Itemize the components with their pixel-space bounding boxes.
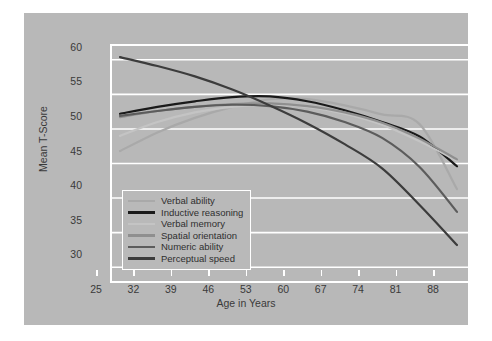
x-tick-label: 81 [381, 284, 411, 295]
legend-swatch-line-icon [128, 246, 155, 249]
legend-swatch-line-icon [128, 200, 155, 203]
chart-screenshot: Mean T-Score Verbal abilityInductive rea… [0, 0, 492, 341]
legend-label: Perceptual speed [161, 254, 235, 264]
x-tick-mark [396, 270, 398, 276]
x-tick-mark [283, 270, 285, 276]
y-axis-title: Mean T-Score [37, 106, 49, 172]
x-tick-mark [246, 270, 248, 276]
x-tick-label: 88 [418, 284, 448, 295]
legend-item: Numeric ability [128, 242, 243, 253]
legend-item: Verbal memory [128, 219, 243, 230]
x-tick-mark [321, 270, 323, 276]
y-tick-label: 45 [56, 146, 82, 157]
y-tick-label: 50 [56, 111, 82, 122]
x-tick-mark [96, 270, 98, 276]
y-tick-label: 55 [56, 76, 82, 87]
legend-swatch-line-icon [128, 234, 155, 237]
legend-label: Verbal ability [161, 196, 215, 206]
x-axis-title: Age in Years [0, 297, 492, 309]
legend-item: Inductive reasoning [128, 207, 243, 218]
y-tick-label: 30 [56, 249, 82, 260]
x-tick-label: 60 [268, 284, 298, 295]
legend-swatch-line-icon [128, 257, 155, 260]
legend-swatch-line-icon [128, 211, 155, 214]
x-tick-label: 67 [306, 284, 336, 295]
y-tick-label: 60 [56, 42, 82, 53]
x-tick-mark [358, 270, 360, 276]
legend-label: Numeric ability [161, 242, 223, 252]
legend-label: Inductive reasoning [161, 208, 243, 218]
legend-item: Spatial orientation [128, 230, 243, 241]
x-tick-label: 53 [231, 284, 261, 295]
legend-label: Verbal memory [161, 219, 225, 229]
x-axis-ticks: 25323946536067748188 [0, 278, 492, 294]
legend-item: Verbal ability [128, 196, 243, 207]
y-tick-label: 40 [56, 180, 82, 191]
legend-swatch-line-icon [128, 223, 155, 226]
x-tick-label: 25 [81, 284, 111, 295]
legend-label: Spatial orientation [161, 231, 237, 241]
x-tick-mark [133, 270, 135, 276]
series-line [120, 98, 457, 189]
y-tick-label: 35 [56, 215, 82, 226]
x-tick-mark [171, 270, 173, 276]
series-line [120, 103, 457, 159]
x-tick-label: 39 [156, 284, 186, 295]
x-tick-mark [433, 270, 435, 276]
x-tick-label: 74 [343, 284, 373, 295]
x-tick-label: 32 [118, 284, 148, 295]
x-tick-mark [208, 270, 210, 276]
legend-item: Perceptual speed [128, 253, 243, 264]
chart-legend: Verbal abilityInductive reasoningVerbal … [122, 190, 251, 270]
x-tick-label: 46 [193, 284, 223, 295]
